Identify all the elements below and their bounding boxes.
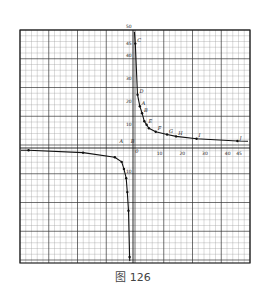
- point-label: C: [137, 37, 141, 43]
- x-tick-label: 10: [157, 151, 163, 156]
- data-point: [141, 112, 143, 114]
- data-point: [114, 156, 116, 158]
- data-point: [134, 42, 136, 44]
- figure-caption: 图 126: [0, 268, 266, 284]
- x-tick-label: 45: [236, 151, 242, 156]
- point-label: G: [169, 128, 173, 134]
- data-point: [27, 149, 29, 151]
- y-tick-label: 10: [126, 169, 132, 174]
- axis-marks: AB0: [118, 138, 139, 153]
- hyperbola-graph: 102030404550454030201010 CDABEFGHIJ AB0: [0, 0, 266, 295]
- y-tick-label: 45: [126, 41, 132, 46]
- axis-mark-label: B: [130, 138, 135, 144]
- data-point: [195, 138, 197, 140]
- point-label: D: [139, 88, 144, 94]
- data-point: [128, 256, 130, 258]
- y-tick-label: 10: [126, 122, 132, 127]
- data-point: [139, 105, 141, 107]
- axis-mark-label: A: [118, 138, 123, 144]
- data-point: [126, 191, 128, 193]
- y-tick-label: 30: [126, 76, 132, 81]
- y-tick-label: 20: [126, 99, 132, 104]
- point-label: H: [177, 130, 183, 136]
- point-label: I: [198, 132, 202, 138]
- curves: [21, 32, 248, 261]
- data-point: [123, 168, 125, 170]
- point-label: F: [157, 125, 162, 131]
- x-tick-label: 40: [225, 151, 231, 156]
- x-tick-label: 20: [179, 151, 185, 156]
- data-point: [148, 127, 150, 129]
- y-tick-label: 40: [126, 53, 132, 58]
- data-point: [143, 120, 145, 122]
- data-point: [166, 133, 168, 135]
- data-point: [136, 93, 138, 95]
- data-point: [125, 177, 127, 179]
- x-tick-label: 30: [202, 151, 208, 156]
- point-label: J: [238, 135, 242, 142]
- data-point: [120, 161, 122, 163]
- right-branch-curve: [134, 32, 248, 141]
- point-label: A: [141, 100, 146, 106]
- data-point: [175, 135, 177, 137]
- data-point: [236, 140, 238, 142]
- data-point: [127, 209, 129, 211]
- data-point: [155, 131, 157, 133]
- y-tick-label: 50: [126, 24, 132, 29]
- data-point: [82, 151, 84, 153]
- data-point: [145, 124, 147, 126]
- point-label: E: [148, 118, 153, 124]
- point-label: B: [143, 107, 148, 113]
